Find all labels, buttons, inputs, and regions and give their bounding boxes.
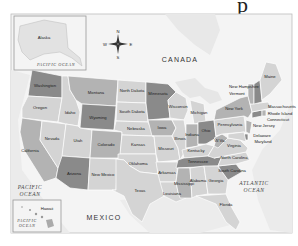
us-map: Washington Oregon California Nevada Idah…: [0, 0, 298, 246]
alaska-inset: Alaska PACIFIC OCEAN: [14, 16, 86, 70]
label-idaho: Idaho: [65, 110, 76, 115]
label-wyoming: Wyoming: [89, 115, 107, 120]
label-georgia: Georgia: [209, 178, 225, 183]
label-west-virginia: W.Va.: [215, 138, 226, 143]
label-maine: Maine: [264, 74, 276, 79]
label-california: California: [21, 148, 39, 153]
label-hawaii: Hawaii: [41, 206, 54, 211]
label-washington: Washington: [34, 83, 57, 88]
label-delaware: Delaware: [253, 133, 271, 138]
label-illinois: Illinois: [174, 136, 186, 141]
compass-w: W: [103, 42, 107, 47]
label-maryland: Maryland: [254, 139, 272, 144]
label-missouri: Missouri: [158, 146, 174, 151]
label-pacific-ocean-alaska: PACIFIC OCEAN: [36, 62, 75, 67]
label-utah: Utah: [74, 138, 84, 143]
state-rhode-island[interactable]: [262, 110, 266, 116]
compass-n: N: [116, 29, 119, 34]
label-kansas: Kansas: [131, 142, 145, 147]
label-new-hampshire: New Hampshire: [229, 84, 259, 89]
label-south-carolina: South Carolina: [218, 168, 246, 173]
label-montana: Montana: [88, 90, 105, 95]
label-new-mexico: New Mexico: [92, 172, 115, 177]
label-kentucky: Kentucky: [187, 148, 205, 153]
label-tennessee: Tennessee: [188, 159, 209, 164]
compass-e: E: [130, 42, 133, 47]
label-virginia: Virginia: [227, 143, 242, 148]
label-north-dakota: North Dakota: [120, 88, 145, 93]
label-wisconsin: Wisconsin: [168, 104, 188, 109]
label-louisiana: Louisiana: [163, 191, 182, 196]
compass-s: S: [117, 55, 120, 60]
label-minnesota: Minnesota: [148, 91, 168, 96]
label-colorado: Colorado: [98, 142, 116, 147]
label-alaska: Alaska: [38, 35, 51, 40]
label-arkansas: Arkansas: [158, 170, 175, 175]
label-pacific-ocean-hawaii-2: OCEAN: [19, 223, 36, 228]
label-iowa: Iowa: [158, 125, 168, 130]
label-north-carolina: North Carolina: [221, 155, 249, 160]
label-connecticut: Connecticut: [267, 117, 290, 122]
label-atlantic-ocean-1: ATLANTIC: [238, 180, 269, 186]
label-mexico: MEXICO: [87, 214, 122, 221]
label-canada: CANADA: [162, 56, 198, 63]
hawaii-inset: Hawaii PACIFIC OCEAN: [13, 200, 61, 232]
label-south-dakota: South Dakota: [119, 109, 145, 114]
label-new-jersey: New Jersey: [253, 123, 276, 128]
label-michigan: Michigan: [191, 110, 208, 115]
label-oregon: Oregon: [33, 105, 48, 110]
label-atlantic-ocean-2: OCEAN: [243, 187, 264, 193]
label-ohio: Ohio: [202, 128, 212, 133]
label-alabama: Alabama: [190, 178, 207, 183]
label-pennsylvania: Pennsylvania: [218, 122, 244, 127]
label-pacific-ocean-1: PACIFIC: [17, 184, 43, 190]
label-nevada: Nevada: [45, 136, 60, 141]
label-arizona: Arizona: [67, 171, 82, 176]
label-new-york: New York: [225, 106, 244, 111]
label-rhode-island: Rhode Island: [268, 111, 293, 116]
label-oklahoma: Oklahoma: [128, 161, 148, 166]
label-florida: Florida: [220, 202, 233, 207]
label-massachusetts: Massachusetts: [268, 104, 296, 109]
label-vermont: Vermont: [229, 91, 245, 96]
label-texas: Texas: [135, 188, 146, 193]
label-indiana: Indiana: [185, 132, 199, 137]
label-nebraska: Nebraska: [127, 126, 146, 131]
label-pacific-ocean-2: OCEAN: [19, 191, 40, 197]
